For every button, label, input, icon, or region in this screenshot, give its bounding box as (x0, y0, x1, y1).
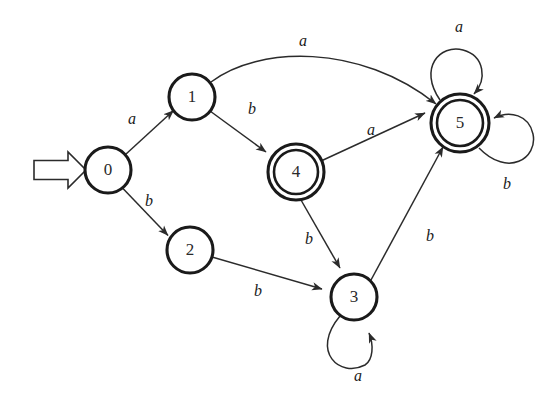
self-loop-label-5-a: a (455, 18, 463, 35)
state-label-4: 4 (292, 162, 301, 181)
self-loop-label-3-a: a (354, 367, 362, 384)
state-label-5: 5 (456, 113, 465, 132)
self-loop-3-a: a (327, 316, 372, 384)
self-loop-5-a: a (431, 18, 482, 100)
state-node-1[interactable]: 1 (169, 74, 215, 120)
state-node-3[interactable]: 3 (331, 274, 377, 320)
transition-2-to-3: b (212, 257, 322, 299)
automaton-diagram: a b a b b a b (0, 0, 554, 409)
transition-4-to-5: a (321, 113, 425, 161)
transition-label-3-5: b (426, 227, 434, 244)
state-node-4[interactable]: 4 (268, 144, 324, 200)
transition-3-to-5: b (371, 147, 443, 280)
start-arrow (34, 152, 86, 188)
state-node-0[interactable]: 0 (85, 147, 131, 193)
transition-label-4-3: b (305, 230, 313, 247)
transition-label-2-3: b (254, 282, 262, 299)
transition-label-0-1: a (128, 110, 136, 127)
automaton-canvas: a b a b b a b (0, 0, 554, 409)
transition-4-to-3: b (301, 200, 340, 268)
transition-1-to-4: b (210, 100, 266, 152)
state-label-1: 1 (188, 87, 197, 106)
transition-label-1-5: a (299, 32, 307, 49)
transition-label-1-4: b (248, 100, 256, 117)
transition-0-to-2: b (123, 188, 169, 236)
transition-0-to-1: a (126, 110, 174, 155)
state-label-2: 2 (186, 240, 195, 259)
state-label-0: 0 (104, 160, 113, 179)
state-label-3: 3 (350, 287, 359, 306)
state-node-2[interactable]: 2 (167, 227, 213, 273)
transition-1-to-5: a (211, 32, 436, 104)
state-node-5[interactable]: 5 (431, 94, 489, 152)
self-loop-label-5-b: b (503, 175, 511, 192)
transition-label-0-2: b (145, 192, 153, 209)
transition-label-4-5: a (367, 121, 375, 138)
